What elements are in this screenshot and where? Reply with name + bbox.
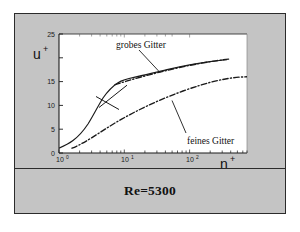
x-axis-title-text: n bbox=[220, 156, 228, 168]
x-tick-labels: 10 0 10 1 10 2 bbox=[56, 154, 199, 164]
x-tick-mantissa-2: 10 bbox=[186, 156, 194, 163]
y-tick-label-0: 0 bbox=[51, 150, 55, 157]
chart-svg: 0 5 10 15 25 bbox=[15, 14, 287, 168]
x-tick-exponent-2: 2 bbox=[196, 154, 199, 160]
x-tick-mantissa-0: 10 bbox=[56, 156, 64, 163]
y-tick-label-25: 25 bbox=[47, 31, 55, 38]
y-axis-title-superscript: + bbox=[43, 44, 48, 54]
y-axis-title-text: u bbox=[33, 46, 41, 62]
y-tick-label-15: 15 bbox=[47, 78, 55, 85]
y-axis-title: u + bbox=[33, 44, 48, 62]
annotation-feines-gitter: feines Gitter bbox=[187, 136, 235, 146]
figure-frame: 0 5 10 15 25 bbox=[14, 13, 286, 214]
y-tick-label-10: 10 bbox=[47, 102, 55, 109]
caption-panel: Re=5300 bbox=[15, 168, 285, 213]
x-tick-exponent-0: 0 bbox=[66, 154, 69, 160]
x-tick-mantissa-1: 10 bbox=[121, 156, 129, 163]
x-tick-exponent-1: 1 bbox=[131, 154, 134, 160]
x-axis-title-superscript: + bbox=[230, 154, 235, 164]
annotation-grobes-gitter: grobes Gitter bbox=[116, 40, 167, 50]
plot-panel: 0 5 10 15 25 bbox=[15, 14, 285, 168]
caption-text: Re=5300 bbox=[124, 183, 176, 199]
x-axis-title: n + bbox=[220, 154, 235, 168]
y-tick-label-5: 5 bbox=[51, 126, 55, 133]
